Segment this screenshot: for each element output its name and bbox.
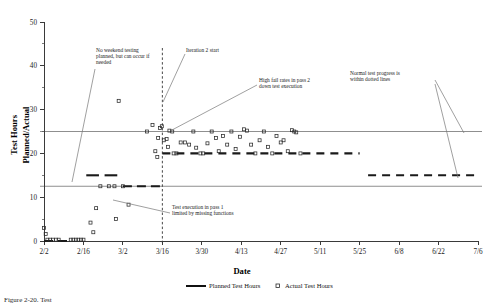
data-point (89, 221, 92, 224)
data-point (179, 141, 182, 144)
annotation-high-fail-rates-line-0: High fail rates in pass 2 (259, 77, 310, 83)
data-point (92, 231, 95, 234)
annotation-normal-test-progress-line-0: Normal test progress is (350, 70, 400, 76)
legend-label-planned: Planned Test Hours (209, 282, 261, 289)
x-tick-label-7: 5/11 (314, 248, 327, 256)
x-tick-label-4: 3/30 (195, 248, 208, 256)
data-point (258, 139, 261, 142)
x-tick-label-0: 2/2 (39, 248, 49, 256)
y-tick-label-4: 40 (30, 62, 38, 70)
x-tick-label-2: 3/2 (118, 248, 128, 256)
figure-container: 010203040502/22/163/23/163/304/134/275/1… (0, 0, 484, 305)
data-point (44, 232, 47, 235)
data-point (226, 143, 229, 146)
annotation-pass-1-limited-line-0: Test execution in pass 1 (172, 204, 224, 210)
data-point (217, 150, 220, 153)
data-point (275, 134, 278, 137)
x-tick-label-5: 4/13 (235, 248, 248, 256)
data-point (95, 207, 98, 210)
data-point (214, 137, 217, 140)
leader-iteration-2-start (163, 54, 185, 102)
annotation-no-weekend-testing-line-0: No weekend testing (96, 47, 139, 53)
data-point (183, 141, 186, 144)
x-tick-label-8: 5/25 (353, 248, 366, 256)
data-point (195, 146, 198, 149)
data-point (157, 137, 160, 140)
x-tick-label-1: 2/16 (77, 248, 90, 256)
chart-canvas: 010203040502/22/163/23/163/304/134/275/1… (0, 0, 484, 305)
data-point (151, 123, 154, 126)
annotation-pass-1-limited-line-1: limited by missing functions (172, 210, 234, 216)
y-tick-label-1: 10 (30, 194, 38, 202)
leader-normal-test-progress (435, 80, 464, 133)
y-tick-label-0: 0 (33, 238, 37, 246)
x-tick-label-10: 6/22 (432, 248, 445, 256)
data-point (234, 148, 237, 151)
data-point (156, 155, 159, 158)
data-point (299, 152, 302, 155)
data-point (286, 150, 289, 153)
legend-group: Planned Test HoursActual Test Hours (186, 282, 333, 289)
legend-label-actual: Actual Test Hours (285, 282, 333, 289)
leader2-normal-test-progress (435, 84, 458, 178)
annotation-normal-test-progress-line-1: within dotted lines (350, 76, 390, 82)
data-point (238, 135, 241, 138)
leader-pass-1-limited (113, 200, 170, 213)
figure-caption: Figure 2-20. Test (4, 296, 52, 304)
data-point (188, 143, 191, 146)
data-point (206, 142, 209, 145)
leader-no-weekend-testing (72, 69, 95, 182)
data-point (154, 150, 157, 153)
legend-swatch-actual-marker (276, 284, 279, 287)
annotation-high-fail-rates-line-1: down test execution (259, 83, 302, 89)
annotation-iteration-2-start-line-0: Iteration 2 start (186, 47, 219, 53)
data-point (267, 145, 270, 148)
x-axis-title: Date (233, 266, 250, 276)
data-point (167, 145, 170, 148)
y-tick-label-5: 50 (30, 19, 38, 27)
planned-series-group (44, 153, 478, 241)
annotation-no-weekend-testing-line-1: planned, but can occur if (96, 53, 150, 59)
data-point (114, 218, 117, 221)
data-point (117, 99, 120, 102)
data-point (271, 152, 274, 155)
x-tick-label-11: 7/6 (473, 248, 483, 256)
x-tick-label-9: 6/8 (394, 248, 404, 256)
leader-high-fail-rates (172, 85, 257, 130)
x-tick-label-6: 4/27 (274, 248, 287, 256)
y-axis-title-line-2: Planned/Actual (21, 106, 31, 163)
actual-series-group (43, 99, 302, 241)
x-tick-label-3: 3/16 (156, 248, 169, 256)
y-axis-title-line-1: Test Hours (9, 114, 19, 155)
data-point (250, 143, 253, 146)
data-point (221, 134, 224, 137)
annotation-no-weekend-testing-line-2: needed (96, 59, 112, 65)
